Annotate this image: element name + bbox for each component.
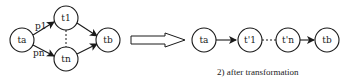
node-label: ta bbox=[200, 35, 210, 45]
edge-tn-tb bbox=[77, 44, 97, 54]
before-graph: ta t1 tn tb p1 pn bbox=[10, 6, 120, 71]
node-t1-prime: t'1 bbox=[238, 28, 262, 52]
node-label: ta bbox=[18, 35, 28, 45]
node-label: tb bbox=[103, 35, 113, 45]
edge-t1-tb bbox=[77, 23, 97, 36]
node-label: t'n bbox=[282, 35, 294, 45]
node-t1: t1 bbox=[54, 6, 78, 30]
node-tn-prime: t'n bbox=[276, 28, 300, 52]
transform-arrow-icon bbox=[131, 33, 185, 47]
after-graph: ta t'1 t'n tb bbox=[192, 28, 339, 52]
node-tn: tn bbox=[54, 47, 78, 71]
node-tb: tb bbox=[315, 28, 339, 52]
node-label: t'1 bbox=[244, 35, 256, 45]
edge-label-pn: pn bbox=[33, 48, 45, 58]
caption: 2) after transformation bbox=[217, 67, 298, 77]
node-ta: ta bbox=[10, 28, 34, 52]
node-tb: tb bbox=[96, 28, 120, 52]
node-label: tb bbox=[322, 35, 332, 45]
node-label: t1 bbox=[61, 13, 70, 23]
node-label: tn bbox=[61, 54, 71, 64]
node-ta: ta bbox=[192, 28, 216, 52]
edge-label-p1: p1 bbox=[35, 21, 47, 31]
